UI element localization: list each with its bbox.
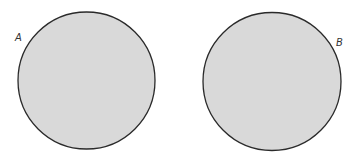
circle-a: [18, 12, 155, 149]
label-b: B: [336, 37, 343, 48]
circle-b: [203, 13, 341, 151]
label-a: A: [14, 32, 22, 43]
diagram-canvas: A B: [0, 0, 357, 157]
